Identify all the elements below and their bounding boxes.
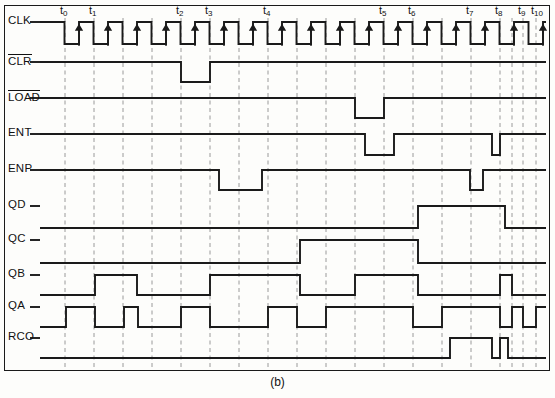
time-marker-index: 10 <box>534 9 543 18</box>
time-marker-t4: t4 <box>263 4 271 16</box>
time-marker-index: 3 <box>208 9 212 18</box>
clock-edge-arrow-group <box>76 25 546 46</box>
clock-rising-edge-arrow <box>76 25 82 46</box>
waveform-QC <box>40 240 546 263</box>
time-marker-t10: t10 <box>531 4 543 16</box>
time-marker-t7: t7 <box>466 4 474 16</box>
clock-rising-edge-arrow <box>540 25 546 46</box>
clock-rising-edge-arrow <box>163 25 169 46</box>
waveform-RCO <box>40 338 546 358</box>
signal-label-rco: RCO <box>8 330 34 342</box>
clock-rising-edge-arrow <box>221 25 227 46</box>
waveform-LOAD <box>40 98 546 118</box>
clock-rising-edge-arrow <box>308 25 314 46</box>
waveform-QB <box>40 275 546 295</box>
signal-label-qb: QB <box>8 267 25 279</box>
signal-label-enp: ENP <box>8 162 32 174</box>
signal-label-text: QA <box>8 299 25 311</box>
signal-label-text: QC <box>8 232 26 244</box>
waveform-canvas <box>0 0 555 398</box>
time-marker-index: 0 <box>63 9 67 18</box>
timing-diagram-figure: CLKCLRLOADENTENPQDQCQBQARCO t0t1t2t3t4t5… <box>0 0 555 398</box>
time-marker-index: 8 <box>498 9 502 18</box>
figure-caption: (b) <box>0 375 555 389</box>
signal-label-text: CLR <box>8 54 32 68</box>
waveform-QA <box>40 307 546 327</box>
time-marker-t1: t1 <box>89 4 97 16</box>
clock-rising-edge-arrow <box>366 25 372 46</box>
signal-label-text: LOAD <box>8 90 40 104</box>
clock-rising-edge-arrow <box>453 25 459 46</box>
time-marker-index: 9 <box>521 9 525 18</box>
clock-rising-edge-arrow <box>424 25 430 46</box>
clock-rising-edge-arrow <box>279 25 285 46</box>
time-marker-t0: t0 <box>60 4 68 16</box>
time-marker-t5: t5 <box>379 4 387 16</box>
waveform-QD <box>40 206 546 228</box>
time-marker-index: 1 <box>92 9 96 18</box>
time-marker-t8: t8 <box>495 4 503 16</box>
signal-label-text: RCO <box>8 330 34 342</box>
time-marker-index: 5 <box>382 9 386 18</box>
clock-rising-edge-arrow <box>337 25 343 46</box>
time-marker-index: 4 <box>266 9 270 18</box>
signal-label-qa: QA <box>8 299 25 311</box>
time-marker-index: 7 <box>469 9 473 18</box>
waveform-CLR <box>40 62 546 82</box>
clock-rising-edge-arrow <box>482 25 488 46</box>
waveform-ENP <box>40 170 546 190</box>
clock-rising-edge-arrow <box>395 25 401 46</box>
signal-label-load: LOAD <box>8 90 40 104</box>
signal-label-text: ENT <box>8 126 32 138</box>
signal-label-qc: QC <box>8 232 26 244</box>
signal-label-clr: CLR <box>8 54 32 68</box>
time-marker-t6: t6 <box>408 4 416 16</box>
signal-label-text: QB <box>8 267 25 279</box>
waveform-CLK <box>40 22 546 44</box>
clock-rising-edge-arrow <box>192 25 198 46</box>
time-marker-t2: t2 <box>176 4 184 16</box>
clock-rising-edge-arrow <box>134 25 140 46</box>
clock-rising-edge-arrow <box>105 25 111 46</box>
signal-label-qd: QD <box>8 198 26 210</box>
time-marker-index: 2 <box>179 9 183 18</box>
signal-label-clk: CLK <box>8 14 31 26</box>
signal-label-ent: ENT <box>8 126 32 138</box>
time-marker-index: 6 <box>411 9 415 18</box>
time-marker-t3: t3 <box>205 4 213 16</box>
signal-label-text: CLK <box>8 14 31 26</box>
clock-rising-edge-arrow <box>250 25 256 46</box>
signal-label-text: QD <box>8 198 26 210</box>
gridline-group <box>65 18 536 368</box>
waveform-group <box>30 22 546 358</box>
time-marker-t9: t9 <box>518 4 526 16</box>
waveform-ENT <box>40 134 546 155</box>
signal-label-text: ENP <box>8 162 32 174</box>
